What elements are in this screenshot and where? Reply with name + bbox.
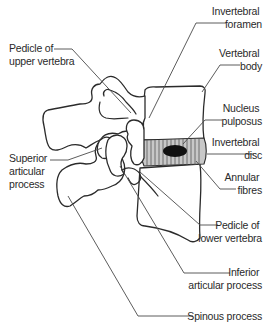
nucleus-pulposus: [163, 145, 187, 157]
label-pedicle-upper: Pedicle of upper vertebra: [9, 42, 75, 67]
vertebrae-diagram: Invertebral foramen Pedicle of upper ver…: [0, 0, 273, 329]
leader-vertebral-body: [202, 65, 240, 92]
label-spinous-process: Spinous process: [187, 310, 262, 322]
label-pedicle-lower: Pedicle of lower vertebra: [198, 219, 262, 244]
label-superior-articular: Superior articular process: [9, 152, 50, 190]
label-intervertebral-disc: Invertebral disc: [212, 136, 262, 161]
upper-vertebral-body: [143, 86, 205, 140]
lower-vertebral-body: [137, 164, 201, 242]
label-vertebral-body: Vertebral body: [219, 47, 263, 72]
upper-inferior-articular-knob: [126, 120, 144, 165]
label-nucleus-pulposus: Nucleus pulposus: [222, 102, 262, 127]
label-inferior-articular: Inferior articular process: [188, 266, 262, 291]
label-annular-fibres: Annular fibres: [224, 171, 262, 196]
label-intervertebral-foramen: Invertebral foramen: [212, 5, 262, 30]
